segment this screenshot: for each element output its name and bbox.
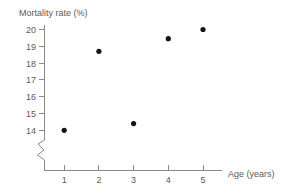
x-tick-label: 3	[131, 175, 136, 185]
y-axis-title: Mortality rate (%)	[19, 8, 88, 18]
x-tick-label: 4	[166, 175, 171, 185]
y-tick: 14	[26, 126, 45, 136]
data-point[interactable]	[200, 27, 205, 32]
chart-canvas: Mortality rate (%) 20 19 18	[0, 0, 287, 194]
x-tick-group: 1 2 3 4 5	[62, 165, 206, 185]
y-tick-label: 18	[26, 59, 36, 69]
y-tick-label: 19	[26, 42, 36, 52]
y-tick: 18	[26, 59, 45, 69]
x-tick-label: 2	[96, 175, 101, 185]
data-point-group	[62, 27, 206, 133]
x-tick: 1	[62, 165, 67, 185]
x-tick: 4	[166, 165, 171, 185]
y-tick: 20	[26, 25, 45, 35]
y-tick-group: 20 19 18 17 16 15	[26, 25, 45, 136]
y-tick: 16	[26, 92, 45, 102]
y-tick-label: 20	[26, 25, 36, 35]
data-point[interactable]	[131, 121, 136, 126]
scatter-chart: Mortality rate (%) 20 19 18	[0, 0, 287, 194]
x-tick-label: 1	[62, 175, 67, 185]
y-tick-label: 14	[26, 126, 36, 136]
x-tick-label: 5	[200, 175, 205, 185]
y-tick: 15	[26, 109, 45, 119]
data-point[interactable]	[62, 128, 67, 133]
y-tick-label: 15	[26, 109, 36, 119]
y-tick: 17	[26, 75, 45, 85]
x-axis-title: Age (years)	[228, 169, 275, 179]
y-tick-label: 17	[26, 75, 36, 85]
y-tick-label: 16	[26, 92, 36, 102]
y-tick: 19	[26, 42, 45, 52]
x-tick: 2	[96, 165, 101, 185]
y-axis-break-icon	[38, 140, 45, 160]
x-tick: 5	[200, 165, 205, 185]
x-tick: 3	[131, 165, 136, 185]
data-point[interactable]	[96, 49, 101, 54]
data-point[interactable]	[166, 36, 171, 41]
